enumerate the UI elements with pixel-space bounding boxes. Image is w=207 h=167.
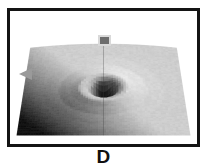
figure-panel: D <box>0 0 207 167</box>
triangle-cursor-icon <box>19 68 32 80</box>
surface-render-canvas <box>10 11 197 144</box>
panel-label: D <box>0 147 207 167</box>
square-marker-icon <box>98 35 111 46</box>
surface-plot-3d <box>10 11 197 144</box>
plot-frame <box>7 8 200 147</box>
